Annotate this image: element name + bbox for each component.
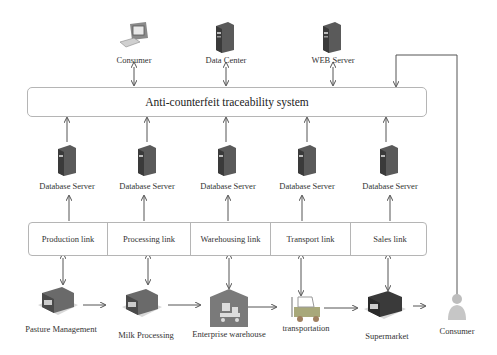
warehouse-icon [210, 289, 248, 327]
link-bar: Production link Processing link Warehous… [28, 222, 427, 256]
forklift-icon [288, 295, 328, 323]
chain-label: transportation [282, 323, 329, 333]
chain-label: Pasture Management [25, 324, 97, 334]
link-sales: Sales link [351, 223, 429, 255]
traceability-system-box: Anti-counterfeit traceability system [27, 87, 427, 117]
chain-label: Enterprise warehouse [192, 329, 265, 339]
database-server-label: Database Server [119, 181, 174, 191]
system-label: Anti-counterfeit traceability system [145, 96, 309, 108]
top-node-label: WEB Server [311, 55, 354, 65]
server-icon [54, 143, 80, 177]
chain-label: Consumer [440, 326, 475, 336]
top-node-label: Consumer [117, 55, 152, 65]
person-icon [446, 292, 468, 322]
building-icon [362, 289, 408, 321]
computer-icon [116, 20, 152, 54]
building-icon [36, 285, 80, 317]
server-icon [212, 20, 238, 54]
chain-label: Milk Processing [118, 330, 174, 340]
building-icon [120, 287, 164, 319]
database-server-label: Database Server [39, 181, 94, 191]
chain-label: Supermarket [365, 331, 408, 341]
link-warehousing: Warehousing link [191, 223, 271, 255]
database-server-label: Database Server [279, 181, 334, 191]
server-icon [294, 143, 320, 177]
top-node-label: Data Center [206, 55, 247, 65]
database-server-label: Database Server [362, 181, 417, 191]
link-transport: Transport link [271, 223, 351, 255]
database-server-label: Database Server [200, 181, 255, 191]
server-icon [319, 20, 345, 54]
server-icon [134, 143, 160, 177]
link-processing: Processing link [108, 223, 191, 255]
server-icon [214, 143, 240, 177]
server-icon [376, 143, 402, 177]
link-production: Production link [29, 223, 108, 255]
